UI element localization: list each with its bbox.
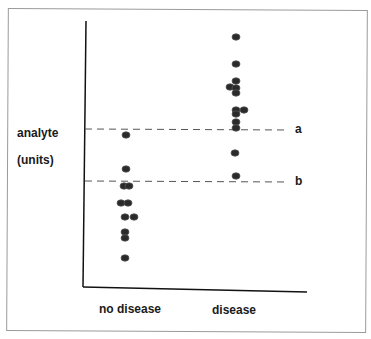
data-point bbox=[232, 111, 240, 117]
data-point bbox=[231, 150, 239, 156]
x-category-disease: disease bbox=[212, 303, 256, 317]
scatter-plot bbox=[0, 0, 371, 339]
axes bbox=[83, 21, 307, 292]
data-point bbox=[121, 235, 129, 241]
data-point bbox=[232, 34, 240, 40]
data-point bbox=[122, 166, 130, 172]
data-point bbox=[232, 119, 240, 125]
y-axis-label-line1: analyte bbox=[17, 126, 58, 140]
data-point bbox=[232, 61, 240, 67]
data-point bbox=[121, 214, 129, 220]
data-point bbox=[121, 255, 129, 261]
data-point bbox=[121, 229, 129, 235]
data-point bbox=[125, 183, 133, 189]
data-point bbox=[232, 173, 240, 179]
data-point bbox=[240, 107, 248, 113]
data-point bbox=[122, 132, 130, 138]
data-point bbox=[124, 200, 132, 206]
data-point bbox=[232, 90, 240, 96]
data-point bbox=[232, 125, 240, 131]
y-axis-label-line2: (units) bbox=[17, 153, 54, 167]
threshold-label-a: a bbox=[295, 122, 302, 136]
data-points bbox=[117, 34, 248, 261]
x-category-no-disease: no disease bbox=[99, 302, 161, 316]
threshold-lines bbox=[85, 129, 288, 182]
threshold-label-b: b bbox=[295, 174, 302, 188]
data-point bbox=[232, 78, 240, 84]
data-point bbox=[130, 214, 138, 220]
threshold-line-a bbox=[85, 129, 288, 130]
threshold-line-b bbox=[85, 181, 288, 182]
